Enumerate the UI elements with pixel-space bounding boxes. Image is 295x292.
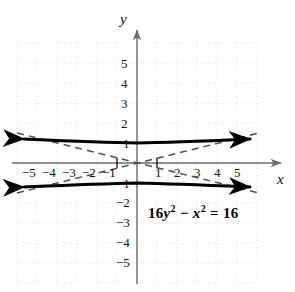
y-tick-label-4: 4 [121,77,128,90]
axes [12,30,281,284]
x-tick-label-1: 1 [155,166,162,179]
x-tick-label-neg1: −1 [102,166,116,179]
y-tick-label-2: 2 [121,117,128,130]
x-tick-label-2: 2 [174,166,181,179]
equation-lead: 16 [148,205,164,221]
x-tick-label-5: 5 [234,166,241,179]
y-axis-label: y [120,12,127,27]
y-tick-label-5: 5 [121,57,128,70]
x-tick-label-neg2: −2 [82,166,96,179]
y-tick-label-neg1: −1 [116,177,130,190]
equation-var-x: x [193,205,201,221]
graph-canvas [0,0,295,292]
x-tick-label-4: 4 [214,166,221,179]
equation-var-y: y [164,205,171,221]
equation-label: 16y2 − x2 = 16 [148,204,239,221]
y-tick-label-neg4: −4 [116,236,130,249]
x-tick-label-3: 3 [194,166,201,179]
x-tick-label-neg3: −3 [62,166,76,179]
equation-rhs: 16 [223,205,239,221]
equation-equals: = [206,205,223,221]
y-tick-label-neg5: −5 [116,256,130,269]
y-tick-label-neg3: −3 [116,216,130,229]
equation-minus: − [176,205,193,221]
x-tick-label-neg5: −5 [22,166,36,179]
x-axis-label: x [277,172,284,187]
y-tick-label-1: 1 [123,137,130,150]
y-tick-label-neg2: −2 [116,196,130,209]
y-tick-label-3: 3 [121,97,128,110]
x-tick-label-neg4: −4 [42,166,56,179]
